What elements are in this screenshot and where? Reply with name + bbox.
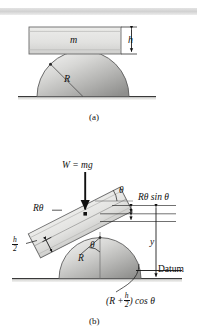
top-band [0, 8, 197, 15]
cos-expression-prefix: (R + [106, 296, 124, 306]
block-mass-label-a: m [70, 35, 77, 45]
half-height-denominator: 2 [12, 244, 18, 253]
radius-label-a: R [64, 74, 70, 84]
height-label-b: y [150, 238, 154, 248]
panel-b [12, 172, 182, 292]
angle-label-block-b: θ [119, 186, 124, 196]
cos-expression-suffix: ) cos θ [130, 296, 155, 306]
weight-label-b: W = mg [62, 161, 93, 171]
datum-label-b: Datum [158, 265, 184, 275]
center-of-mass-marker [83, 212, 87, 216]
physics-figure [0, 0, 197, 336]
semicircle-dome-a [37, 51, 129, 97]
cos-expression-b: (R +h2) cos θ [106, 292, 155, 308]
angle-label-center-b: θ [90, 241, 95, 251]
vertical-component-label-b: Rθ sin θ [138, 193, 169, 203]
caption-b: (b) [89, 317, 100, 326]
caption-a: (a) [89, 113, 99, 122]
half-height-label-b: h 2 [12, 236, 18, 252]
height-label-a: h [128, 35, 133, 45]
half-height-numerator: h [12, 236, 18, 244]
radius-label-b: R [78, 254, 84, 264]
panel-a [18, 27, 156, 100]
arc-length-label-b: Rθ [33, 204, 43, 214]
